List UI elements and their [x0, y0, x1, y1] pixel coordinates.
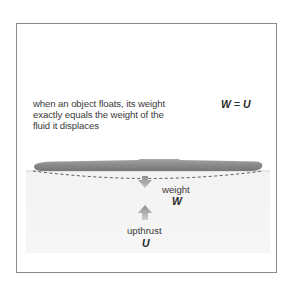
weight-symbol: W [172, 195, 182, 207]
floating-object [34, 159, 262, 171]
weight-label: weight [162, 184, 190, 195]
upthrust-symbol: U [142, 237, 150, 249]
arrow-down-icon [138, 176, 152, 188]
upthrust-label: upthrust [127, 225, 162, 236]
arrow-up-icon [138, 205, 152, 220]
